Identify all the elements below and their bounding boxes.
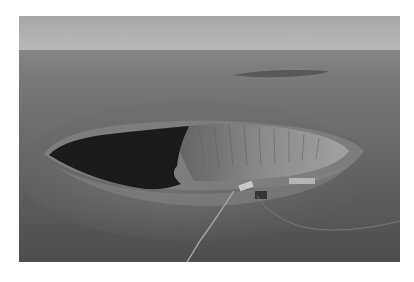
crater-photograph bbox=[19, 16, 400, 262]
crater-scene bbox=[19, 16, 400, 262]
film-grain bbox=[19, 16, 400, 262]
